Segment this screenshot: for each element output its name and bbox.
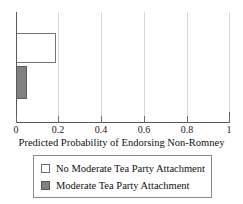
bar-no-moderate-tea-party-attachment [16,33,56,63]
y-axis-line [16,12,17,123]
x-tick-0-6 [144,116,145,123]
gridline-0-4 [101,12,102,122]
legend-label-no-moderate: No Moderate Tea Party Attachment [56,162,205,175]
filled-square-swatch-icon [41,181,50,190]
x-tick-0-2 [58,116,59,123]
x-tick-0-8 [187,116,188,123]
gridline-0-2 [58,12,59,122]
plot-area [16,12,230,122]
bar-moderate-tea-party-attachment [16,66,27,99]
chart-legend: No Moderate Tea Party Attachment Moderat… [33,155,212,198]
x-tick-label-0-2: 0.2 [43,124,73,136]
x-tick-label-0-4: 0.4 [86,124,116,136]
legend-item-moderate-tea-party-attachment: Moderate Tea Party Attachment [41,177,211,194]
x-axis-line [16,122,230,123]
x-tick-label-0-8: 0.8 [172,124,202,136]
legend-item-no-moderate-tea-party-attachment: No Moderate Tea Party Attachment [41,160,211,177]
legend-label-moderate: Moderate Tea Party Attachment [56,179,190,192]
gridline-0-8 [187,12,188,122]
x-tick-label-0-6: 0.6 [129,124,159,136]
open-square-swatch-icon [41,164,50,173]
x-tick-0-4 [101,116,102,123]
gridline-1 [229,12,230,122]
x-tick-label-1: 1 [214,124,243,136]
horizontal-bar-chart: 0 0.2 0.4 0.6 0.8 1 Predicted Probabilit… [0,0,243,204]
gridline-0-6 [144,12,145,122]
x-tick-1 [229,116,230,123]
x-tick-label-0: 0 [1,124,31,136]
x-tick-0 [16,116,17,123]
x-axis-title: Predicted Probability of Endorsing Non-R… [0,136,243,149]
